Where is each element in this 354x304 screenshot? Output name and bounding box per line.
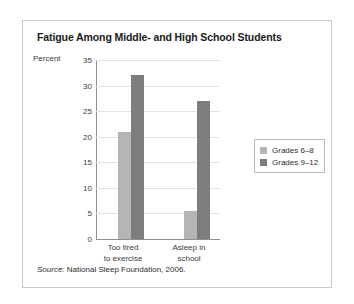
source-prefix: Source:: [37, 265, 65, 274]
y-tick-label: 25: [83, 107, 92, 116]
plot-area: 05101520253035 Too tiredto exerciseAslee…: [96, 60, 220, 240]
y-tick-label: 5: [88, 209, 92, 218]
x-category-label: Too tiredto exercise: [88, 243, 158, 264]
bar: [184, 211, 197, 239]
y-tick-label: 20: [83, 132, 92, 141]
y-axis-label: Percent: [33, 54, 61, 63]
legend-swatch-icon: [260, 147, 267, 154]
gridline: [96, 86, 220, 87]
y-tick-label: 35: [83, 56, 92, 65]
legend-item: Grades 6–8: [260, 144, 318, 156]
legend: Grades 6–8Grades 9–12: [254, 139, 325, 173]
legend-label: Grades 9–12: [272, 158, 318, 167]
source-note: Source: National Sleep Foundation, 2006.: [37, 265, 186, 274]
x-category-label-line: Too tired: [88, 243, 158, 254]
y-tick-label: 10: [83, 183, 92, 192]
x-category-label-line: school: [154, 254, 224, 265]
figure-frame: Fatigue Among Middle- and High School St…: [22, 20, 332, 288]
page-title: Fatigue Among Middle- and High School St…: [37, 31, 282, 43]
gridline: [96, 60, 220, 61]
x-category-label: Asleep inschool: [154, 243, 224, 264]
bar: [131, 75, 144, 239]
x-category-label-line: Asleep in: [154, 243, 224, 254]
legend-label: Grades 6–8: [272, 146, 314, 155]
x-axis-line: [96, 239, 220, 240]
bar: [118, 132, 131, 239]
x-category-label-line: to exercise: [88, 254, 158, 265]
y-tick-label: 30: [83, 81, 92, 90]
legend-swatch-icon: [260, 159, 267, 166]
source-text: National Sleep Foundation, 2006.: [65, 265, 186, 274]
bar: [197, 101, 210, 239]
legend-item: Grades 9–12: [260, 156, 318, 168]
y-tick-label: 15: [83, 158, 92, 167]
